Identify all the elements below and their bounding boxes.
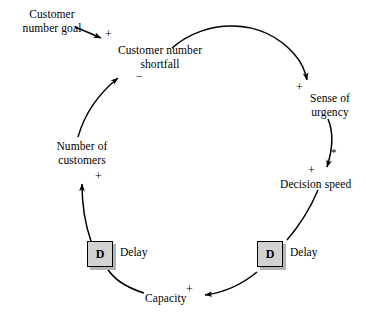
line-capacity-to-delay-left	[107, 268, 144, 293]
delay-box-right-label: Delay	[290, 246, 317, 259]
causal-loop-diagram-canvas: Customer number goal Customer number sho…	[0, 0, 366, 317]
node-customer-number-goal: Customer number goal	[12, 8, 92, 35]
node-sense-of-urgency-line1: Sense of	[300, 92, 360, 106]
arrow-customers-to-shortfall	[78, 78, 118, 137]
node-number-of-customers-line2: customers	[39, 154, 125, 168]
node-decision-speed-line1: Decision speed	[280, 178, 364, 192]
polarity-plus-delay-to-capacity: +	[186, 283, 193, 295]
polarity-plus-delay-to-customers: +	[95, 170, 102, 182]
node-customer-number-shortfall: Customer number shortfall	[112, 44, 208, 71]
node-decision-speed: Decision speed	[280, 178, 364, 192]
polarity-minus-customers-to-shortfall: −	[136, 70, 143, 82]
arrow-delay-left-to-customers	[82, 184, 91, 241]
node-sense-of-urgency-line2: urgency	[300, 106, 360, 120]
line-decision-speed-to-delay-right	[287, 190, 318, 240]
node-sense-of-urgency: Sense of urgency	[300, 92, 360, 119]
node-customer-number-shortfall-line2: shortfall	[112, 58, 208, 72]
polarity-star-urgency-to-decision-speed: *	[331, 146, 337, 158]
delay-box-left-letter: D	[88, 242, 112, 266]
node-customer-number-goal-line2: number goal	[12, 22, 92, 36]
delay-box-right-letter: D	[258, 242, 282, 266]
node-number-of-customers-line1: Number of	[39, 140, 125, 154]
polarity-plus-urgency-to-decision-speed: +	[308, 164, 315, 176]
polarity-plus-goal-to-shortfall: +	[105, 28, 112, 40]
arrow-delay-right-to-capacity	[205, 272, 257, 295]
polarity-plus-shortfall-to-urgency: +	[296, 81, 303, 93]
arrow-urgency-to-decision-speed	[327, 119, 332, 167]
delay-box-left: D	[87, 241, 113, 267]
node-customer-number-shortfall-line1: Customer number	[112, 44, 208, 58]
delay-box-left-label: Delay	[120, 246, 147, 259]
delay-box-right: D	[257, 241, 283, 267]
node-customer-number-goal-line1: Customer	[12, 8, 92, 22]
node-number-of-customers: Number of customers	[39, 140, 125, 167]
